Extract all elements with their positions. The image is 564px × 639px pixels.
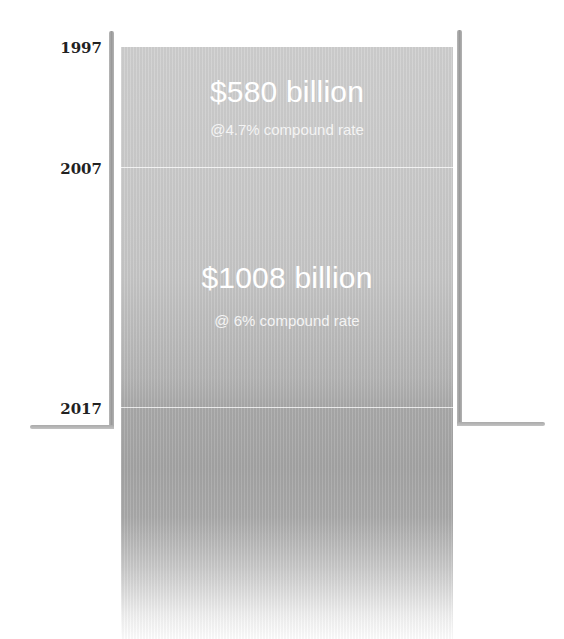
segment-1-amount: $580 billion [121, 75, 453, 109]
left-wall [109, 31, 114, 428]
left-floor-line [30, 425, 114, 429]
year-label-2007: 2007 [30, 160, 102, 178]
year-label-1997: 1997 [30, 39, 102, 57]
right-wall [457, 30, 462, 425]
year-label-2017: 2017 [30, 400, 102, 418]
chart-title-cropped: … y p … [80, 0, 480, 6]
right-floor-line [457, 422, 545, 426]
title-text: … y p … [80, 0, 168, 6]
segment-1-rate: @4.7% compound rate [121, 121, 453, 138]
divider-2017 [121, 407, 453, 408]
segment-2-rate: @ 6% compound rate [121, 312, 453, 329]
segment-2-amount: $1008 billion [121, 261, 453, 295]
divider-2007 [121, 167, 453, 168]
